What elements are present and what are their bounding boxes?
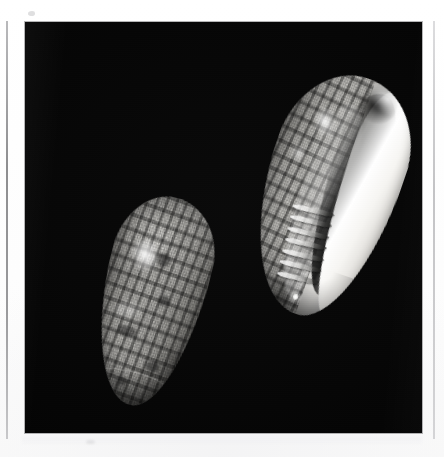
gutter-rule-right — [433, 21, 435, 439]
columellar-plait — [287, 225, 330, 239]
specular-highlight — [310, 105, 338, 140]
plate-caption — [25, 439, 422, 451]
scanned-page — [0, 0, 444, 457]
gutter-rule-left — [6, 21, 8, 439]
secondary-highlight — [110, 298, 146, 322]
scan-speck-icon — [28, 11, 35, 16]
columellar-plait — [284, 237, 327, 251]
photograph — [25, 22, 422, 433]
columellar-plait — [289, 214, 332, 228]
